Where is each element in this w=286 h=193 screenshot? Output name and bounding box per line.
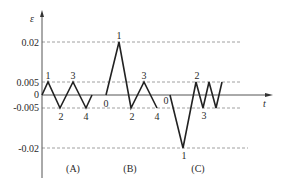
panel-caption-b: (B) (123, 163, 136, 175)
point-label: 3 (142, 70, 147, 81)
waveform-c (170, 82, 222, 148)
y-tick-label: 0.005 (17, 77, 40, 88)
point-label: 4 (84, 111, 89, 122)
point-label: 0 (164, 95, 169, 106)
point-label: 0 (104, 98, 109, 109)
t-axis-arrow-icon (265, 93, 273, 97)
waveform-b (106, 42, 157, 108)
point-label: 4 (155, 111, 160, 122)
point-label: 2 (59, 111, 64, 122)
y-tick-label: 0 (34, 89, 39, 100)
panel-caption-a: (A) (66, 163, 80, 175)
point-label: 1 (182, 150, 187, 161)
point-label: 3 (71, 70, 76, 81)
point-label: 2 (130, 111, 135, 122)
y-axis-label: ε (30, 13, 34, 24)
x-axis-label: t (263, 98, 266, 109)
point-label: 1 (117, 30, 122, 41)
strain-time-diagram: ε t 0.02 0.005 0 -0.005 -0.02 1 2 3 4 0 … (0, 0, 286, 193)
point-label: 2 (195, 70, 200, 81)
point-label: 1 (46, 70, 51, 81)
panel-caption-c: (C) (191, 163, 204, 175)
y-tick-label: 0.02 (22, 37, 40, 48)
y-tick-label: -0.02 (18, 143, 39, 154)
y-tick-label: -0.005 (13, 102, 39, 113)
y-axis-arrow-icon (40, 10, 44, 17)
point-label: 3 (202, 110, 207, 121)
